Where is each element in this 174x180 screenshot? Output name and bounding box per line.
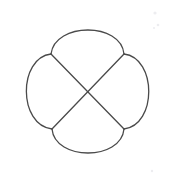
speck-upper-right-1 <box>153 11 156 14</box>
speck-lower-right-1 <box>151 170 153 172</box>
speck-upper-right-2 <box>157 24 160 27</box>
speck-upper-right-3 <box>153 27 155 29</box>
quatrefoil-figure <box>0 0 174 180</box>
figure-canvas <box>0 0 174 180</box>
